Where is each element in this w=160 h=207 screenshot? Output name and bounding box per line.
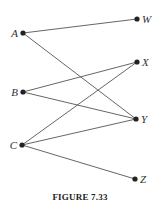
node-x — [134, 59, 139, 64]
graph-edges — [22, 19, 137, 179]
edge-a-w — [23, 19, 137, 33]
graph-nodes — [19, 16, 139, 181]
node-label-y: Y — [141, 113, 149, 125]
node-w — [134, 16, 139, 21]
node-label-b: B — [11, 86, 18, 98]
node-label-a: A — [10, 27, 18, 39]
figure-canvas: ABCWXYZ FIGURE 7.33 — [0, 0, 160, 207]
node-b — [20, 89, 25, 94]
edge-c-x — [22, 62, 137, 145]
node-label-x: X — [141, 56, 150, 68]
node-y — [133, 116, 138, 121]
node-label-z: Z — [140, 173, 147, 185]
edge-c-y — [22, 119, 136, 145]
bipartite-graph: ABCWXYZ — [0, 0, 160, 207]
node-z — [132, 176, 137, 181]
node-c — [19, 142, 24, 147]
edge-b-y — [23, 92, 136, 119]
figure-caption: FIGURE 7.33 — [0, 192, 160, 202]
edge-c-z — [22, 145, 135, 179]
node-label-w: W — [142, 13, 152, 25]
edge-a-y — [23, 33, 136, 119]
node-label-c: C — [10, 139, 18, 151]
edge-b-x — [23, 62, 137, 92]
node-a — [20, 30, 25, 35]
